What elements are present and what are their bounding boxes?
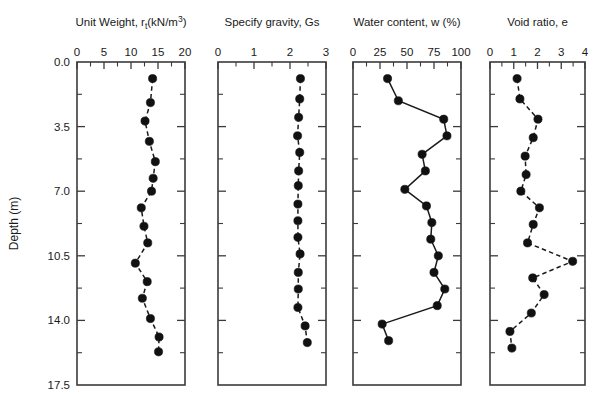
data-point-marker xyxy=(146,314,154,322)
x-tick-label: 100 xyxy=(451,46,470,58)
data-point-marker xyxy=(294,233,302,241)
data-point-marker xyxy=(294,268,302,276)
x-tick-label: 75 xyxy=(428,46,441,58)
data-point-marker xyxy=(513,75,521,83)
data-point-marker xyxy=(422,202,430,210)
data-point-marker xyxy=(529,220,537,228)
x-tick-label: 1 xyxy=(251,46,257,58)
data-point-marker xyxy=(421,167,429,175)
x-tick-label: 0 xyxy=(350,46,356,58)
data-point-marker xyxy=(144,239,152,247)
x-tick-label: 4 xyxy=(582,46,589,58)
data-point-marker xyxy=(146,99,154,107)
x-tick-label: 2 xyxy=(534,46,540,58)
data-point-marker xyxy=(294,285,302,293)
data-point-marker xyxy=(534,115,542,123)
data-point-marker xyxy=(401,185,409,193)
panel-2: 0123Specify gravity, Gs xyxy=(215,16,329,385)
data-point-marker xyxy=(535,204,543,212)
x-tick-label: 0 xyxy=(215,46,221,58)
data-point-marker xyxy=(529,274,537,282)
x-tick-label: 10 xyxy=(125,46,138,58)
data-point-marker xyxy=(145,137,153,145)
data-point-marker xyxy=(296,95,304,103)
data-point-marker xyxy=(293,132,301,140)
data-point-marker xyxy=(303,338,311,346)
data-point-marker xyxy=(141,117,149,125)
data-point-marker xyxy=(433,302,441,310)
panel-frame xyxy=(77,62,185,385)
data-point-marker xyxy=(149,174,157,182)
data-point-marker xyxy=(294,217,302,225)
data-point-marker xyxy=(440,115,448,123)
panel-title: Specify gravity, Gs xyxy=(224,16,319,28)
data-point-marker xyxy=(137,204,145,212)
data-point-marker xyxy=(434,252,442,260)
y-axis-title: Depth (m) xyxy=(7,197,21,250)
data-point-marker xyxy=(143,278,151,286)
x-tick-label: 25 xyxy=(374,46,387,58)
panel-4: 01234Void ratio, e xyxy=(487,16,589,385)
depth-tick-label: 14.0 xyxy=(48,314,70,326)
x-tick-label: 0 xyxy=(74,46,80,58)
panel-frame xyxy=(218,62,326,385)
x-tick-label: 1 xyxy=(511,46,517,58)
geotechnical-depth-profile-figure: Depth (m)0.03.57.010.514.017.505101520Un… xyxy=(0,0,609,413)
data-point-marker xyxy=(295,113,303,121)
panel-title: Unit Weight, rt(kN/m3) xyxy=(75,14,186,32)
depth-tick-label: 17.5 xyxy=(48,379,70,391)
data-point-marker xyxy=(140,222,148,230)
data-point-marker xyxy=(522,170,530,178)
x-tick-label: 3 xyxy=(323,46,329,58)
data-point-marker xyxy=(508,344,516,352)
data-point-marker xyxy=(521,152,529,160)
depth-tick-label: 7.0 xyxy=(54,185,70,197)
depth-tick-label: 3.5 xyxy=(54,121,70,133)
panel-frame xyxy=(353,62,461,385)
data-point-marker xyxy=(506,327,514,335)
data-point-marker xyxy=(295,167,303,175)
depth-tick-label: 0.0 xyxy=(54,56,70,68)
x-tick-label: 50 xyxy=(401,46,414,58)
data-point-marker xyxy=(418,150,426,158)
data-point-marker xyxy=(294,182,302,190)
data-point-marker xyxy=(138,294,146,302)
chart-canvas: Depth (m)0.03.57.010.514.017.505101520Un… xyxy=(0,0,609,413)
data-point-marker xyxy=(154,348,162,356)
data-point-marker xyxy=(131,259,139,267)
data-point-marker xyxy=(529,134,537,142)
data-point-marker xyxy=(149,75,157,83)
x-tick-label: 3 xyxy=(558,46,564,58)
data-point-marker xyxy=(523,239,531,247)
data-point-marker xyxy=(294,200,302,208)
data-point-marker xyxy=(296,75,304,83)
data-point-marker xyxy=(151,158,159,166)
data-point-marker xyxy=(301,322,309,330)
data-point-marker xyxy=(441,285,449,293)
depth-tick-label: 10.5 xyxy=(48,250,70,262)
data-point-marker xyxy=(427,235,435,243)
panel-3: 0255075100Water content, w (%) xyxy=(350,16,471,385)
data-point-marker xyxy=(378,320,386,328)
data-point-marker xyxy=(147,187,155,195)
panel-1: 05101520Unit Weight, rt(kN/m3) xyxy=(74,14,192,386)
x-tick-label: 15 xyxy=(152,46,165,58)
panel-title: Water content, w (%) xyxy=(354,16,461,28)
data-point-marker xyxy=(155,333,163,341)
panel-title: Void ratio, e xyxy=(507,16,568,28)
x-tick-label: 5 xyxy=(101,46,107,58)
data-point-marker xyxy=(527,309,535,317)
data-point-marker xyxy=(394,97,402,105)
data-point-marker xyxy=(569,257,577,265)
x-tick-label: 20 xyxy=(179,46,192,58)
data-point-marker xyxy=(430,268,438,276)
data-point-marker xyxy=(517,187,525,195)
data-point-marker xyxy=(385,337,393,345)
x-tick-label: 2 xyxy=(287,46,293,58)
data-point-marker xyxy=(516,95,524,103)
x-tick-label: 0 xyxy=(487,46,493,58)
data-point-marker xyxy=(294,303,302,311)
data-point-marker xyxy=(428,218,436,226)
data-point-marker xyxy=(296,250,304,258)
data-point-marker xyxy=(383,75,391,83)
